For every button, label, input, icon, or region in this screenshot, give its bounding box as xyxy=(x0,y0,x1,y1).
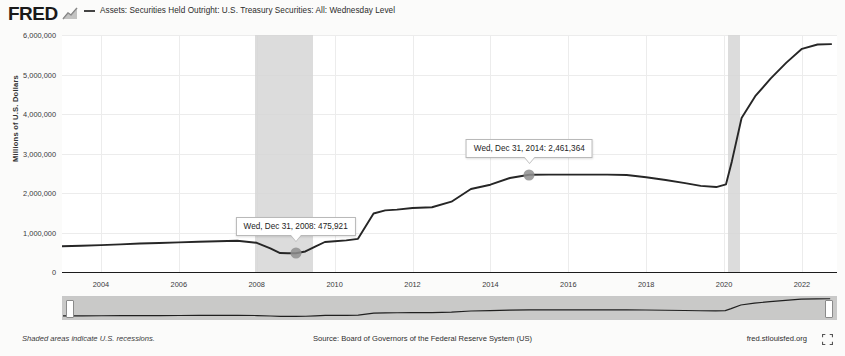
x-tick-label: 2022 xyxy=(794,280,810,289)
series-line-treasury-securities xyxy=(62,35,837,272)
range-handle-right-icon[interactable] xyxy=(825,300,833,318)
x-axis-ticks: 2004200620082010201220142016201820202022 xyxy=(62,278,837,294)
fullscreen-expand-icon[interactable] xyxy=(822,334,833,345)
y-tick-label: 3,000,000 xyxy=(4,149,56,158)
x-tick-label: 2016 xyxy=(560,280,576,289)
x-tick-label: 2020 xyxy=(716,280,732,289)
data-point-tooltip-1: Wed, Dec 31, 2008: 475,921 xyxy=(236,217,356,236)
plot-area-wrapper: Millions of U.S. Dollars 6,000,0005,000,… xyxy=(0,26,845,278)
x-tick-label: 2010 xyxy=(326,280,342,289)
x-tick-label: 2004 xyxy=(93,280,109,289)
fred-logo: FRED xyxy=(8,3,58,25)
x-tick-label: 2018 xyxy=(638,280,654,289)
y-tick-label: 0 xyxy=(4,268,56,277)
range-sparkline xyxy=(63,297,836,319)
y-tick-label: 1,000,000 xyxy=(4,228,56,237)
y-tick-label: 6,000,000 xyxy=(4,31,56,40)
y-tick-label: 5,000,000 xyxy=(4,70,56,79)
data-point-tooltip-2: Wed, Dec 31, 2014: 2,461,364 xyxy=(466,139,593,158)
data-point-marker-1[interactable] xyxy=(290,248,301,259)
date-range-slider[interactable] xyxy=(62,296,837,320)
fred-chart-mark-icon xyxy=(62,7,78,20)
x-tick-label: 2012 xyxy=(404,280,420,289)
source-footnote: Source: Board of Governors of the Federa… xyxy=(0,334,845,343)
y-axis-ticks: 6,000,0005,000,0004,000,0003,000,0002,00… xyxy=(0,26,56,278)
y-tick-label: 4,000,000 xyxy=(4,110,56,119)
y-tick-label: 2,000,000 xyxy=(4,189,56,198)
x-tick-label: 2008 xyxy=(248,280,264,289)
fred-chart-container: FRED Assets: Securities Held Outright: U… xyxy=(0,0,845,356)
fred-url-label: fred.stlouisfed.org xyxy=(747,334,807,343)
chart-header: FRED Assets: Securities Held Outright: U… xyxy=(0,0,845,26)
chart-footer: Shaded areas indicate U.S. recessions. S… xyxy=(0,326,845,356)
range-handle-left-icon[interactable] xyxy=(66,300,74,318)
legend-series-label: Assets: Securities Held Outright: U.S. T… xyxy=(100,6,395,15)
series-legend[interactable]: Assets: Securities Held Outright: U.S. T… xyxy=(84,6,395,15)
data-point-marker-2[interactable] xyxy=(524,169,535,180)
x-tick-label: 2014 xyxy=(482,280,498,289)
x-tick-label: 2006 xyxy=(171,280,187,289)
legend-swatch-icon xyxy=(84,10,95,12)
plot-canvas[interactable]: Wed, Dec 31, 2008: 475,921Wed, Dec 31, 2… xyxy=(62,35,837,273)
